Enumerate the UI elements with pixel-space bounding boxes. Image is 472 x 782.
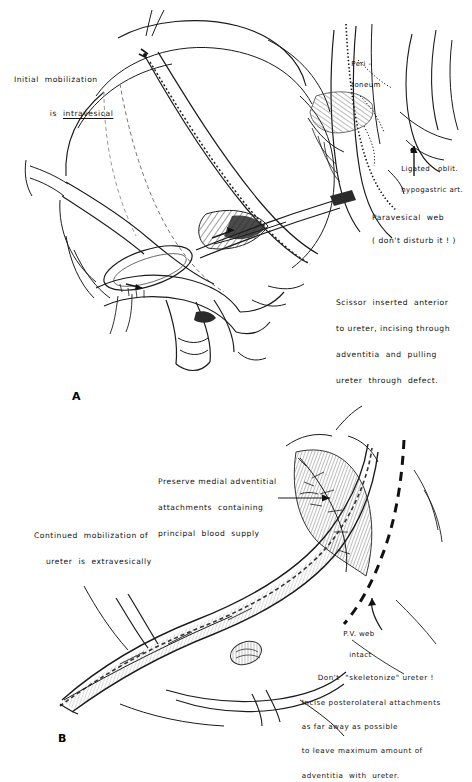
annotation-peritoneum-line2: toneum bbox=[351, 81, 380, 89]
annotation-pvweb-line2: intact bbox=[343, 650, 371, 661]
annotation-pvweb-line1: P.V. web bbox=[343, 630, 374, 638]
annotation-skeletonize-line4: to leave maximum amount of bbox=[302, 746, 423, 755]
annotation-peritoneum: Peri - toneum bbox=[346, 48, 381, 90]
annotation-pv-web-intact: P.V. web intact bbox=[338, 618, 375, 660]
annotation-ligated-line2: hypogastric art. bbox=[401, 186, 463, 194]
annotation-initial-mobilization: Initial mobilization is intravesical bbox=[8, 62, 113, 131]
annotation-continued-line1: Continued mobilization of bbox=[34, 531, 148, 540]
annotation-preserve-adventitia: Preserve medial adventitial attachments … bbox=[152, 462, 277, 540]
annotation-continued-line2: ureter is extravesically bbox=[34, 555, 152, 568]
annotation-paravesical-line2: ( don't disturb it ! ) bbox=[372, 236, 456, 245]
annotation-initial-line2-underlined: intravesical bbox=[63, 109, 113, 118]
panel-label-b: B bbox=[58, 732, 66, 745]
panel-label-a: A bbox=[72, 390, 81, 403]
annotation-ligated-artery: Ligated oblit. hypogastric art. bbox=[396, 153, 463, 195]
annotation-ligated-line1: Ligated oblit. bbox=[401, 165, 458, 173]
annotation-skeletonize-line1: Don't "skeletonize" ureter ! bbox=[302, 672, 434, 684]
annotation-initial-line1: Initial mobilization bbox=[14, 75, 98, 84]
annotation-preserve-line1: Preserve medial adventitial bbox=[158, 477, 277, 486]
annotation-peritoneum-line1: Peri - bbox=[351, 60, 371, 68]
annotation-scissor-line2: to ureter, incising through bbox=[336, 324, 450, 333]
annotation-scissor-line4: ureter through defect. bbox=[336, 376, 438, 385]
annotation-preserve-line2: attachments containing bbox=[158, 503, 263, 512]
annotation-preserve-line3: principal blood supply bbox=[158, 529, 260, 538]
annotation-scissor-line3: adventitia and pulling bbox=[336, 350, 437, 359]
annotation-scissor-line1: Scissor inserted anterior bbox=[336, 298, 449, 307]
annotation-skeletonize-line3: as far away as possible bbox=[302, 722, 398, 731]
annotation-skeletonize-line2: Incise posterolateral attachments bbox=[302, 698, 441, 707]
annotation-scissor-instruction: Scissor inserted anterior to ureter, inc… bbox=[330, 283, 450, 387]
annotation-dont-skeletonize: Don't "skeletonize" ureter ! Incise post… bbox=[296, 660, 441, 782]
annotation-initial-line2-prefix: is bbox=[50, 109, 63, 118]
annotation-skeletonize-line5: adventitia with ureter. bbox=[302, 771, 400, 780]
annotation-paravesical-web: Paravesical web ( don't disturb it ! ) bbox=[366, 200, 456, 246]
annotation-paravesical-line1: Paravesical web bbox=[372, 213, 444, 222]
annotation-continued-mobilization: Continued mobilization of ureter is extr… bbox=[28, 516, 152, 568]
